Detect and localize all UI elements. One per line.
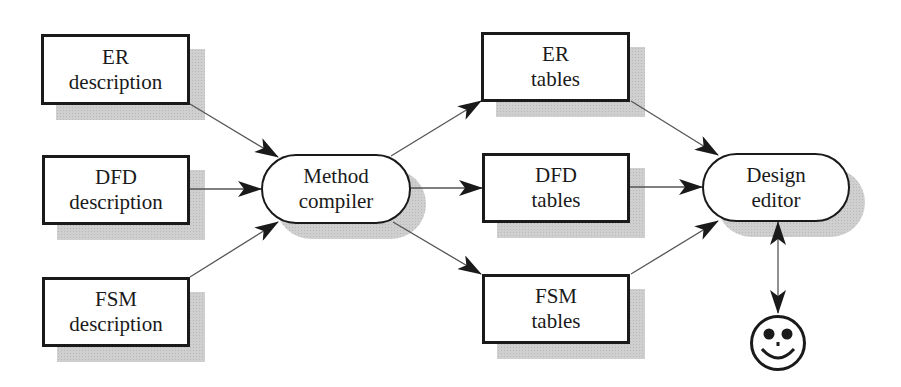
- node-label-line: description: [69, 312, 162, 337]
- node-label-line: DFD: [535, 163, 577, 188]
- node-label-line: Design: [746, 163, 806, 188]
- node-design-editor: Design editor: [702, 153, 850, 222]
- node-label-line: description: [69, 70, 162, 95]
- node-label-line: ER: [542, 42, 569, 67]
- smiley-face-icon: [749, 314, 807, 372]
- node-label-line: Method: [303, 164, 368, 189]
- node-label-line: tables: [532, 309, 581, 334]
- node-fsm-tables: FSM tables: [482, 274, 630, 344]
- method-compiler-diagram: ER description DFD description FSM descr…: [0, 0, 901, 387]
- node-label-line: FSM: [535, 284, 577, 309]
- node-label-line: tables: [532, 188, 581, 213]
- node-label-line: tables: [531, 67, 580, 92]
- node-dfd-tables: DFD tables: [482, 153, 630, 223]
- node-er-description: ER description: [41, 34, 190, 105]
- node-er-tables: ER tables: [481, 32, 630, 102]
- node-label-line: FSM: [95, 287, 137, 312]
- node-label-line: DFD: [95, 165, 137, 190]
- node-fsm-description: FSM description: [42, 277, 190, 347]
- node-dfd-description: DFD description: [42, 155, 190, 225]
- node-label-line: compiler: [299, 189, 374, 214]
- node-label-line: editor: [752, 188, 801, 213]
- edge-method_compiler-to-er_tables: [391, 101, 481, 156]
- node-label-line: description: [69, 190, 162, 215]
- node-label-line: ER: [102, 45, 129, 70]
- node-method-compiler: Method compiler: [261, 154, 411, 224]
